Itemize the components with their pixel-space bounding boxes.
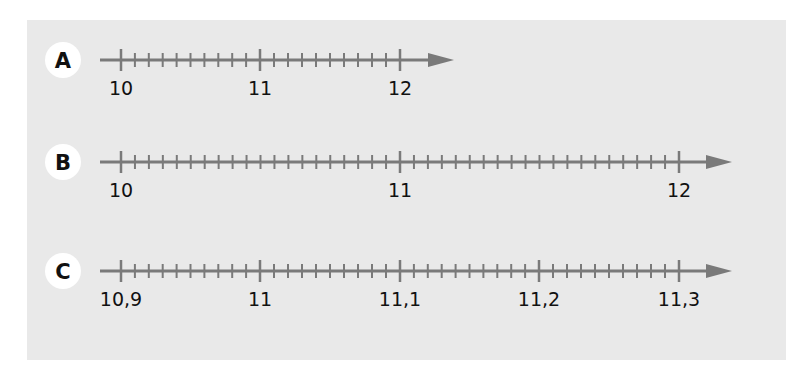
row-label: A	[55, 49, 72, 73]
arrow-right-icon	[706, 155, 732, 169]
tick-label: 11,2	[518, 288, 560, 310]
number-line-a: A101112	[45, 42, 454, 99]
tick-label: 11	[388, 179, 412, 201]
tick-label: 10	[109, 77, 133, 99]
tick-label: 11,1	[379, 288, 421, 310]
row-label: C	[55, 260, 70, 284]
tick-label: 10,9	[100, 288, 142, 310]
tick-label: 12	[667, 179, 691, 201]
number-lines-diagram: A101112B101112C10,91111,111,211,3	[0, 0, 805, 372]
tick-label: 10	[109, 179, 133, 201]
number-line-c: C10,91111,111,211,3	[45, 253, 732, 310]
tick-label: 12	[388, 77, 412, 99]
arrow-right-icon	[706, 264, 732, 278]
tick-label: 11	[248, 288, 272, 310]
tick-label: 11,3	[658, 288, 700, 310]
row-label: B	[55, 151, 71, 175]
number-line-b: B101112	[45, 144, 732, 201]
arrow-right-icon	[428, 53, 454, 67]
tick-label: 11	[248, 77, 272, 99]
